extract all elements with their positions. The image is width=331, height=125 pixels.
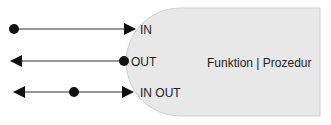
dot-marker-icon bbox=[9, 24, 19, 34]
dot-marker-icon bbox=[119, 56, 129, 66]
param-in-label: IN bbox=[140, 23, 152, 37]
arrow-left-icon bbox=[10, 55, 22, 67]
param-out-label: OUT bbox=[131, 55, 156, 69]
param-in-connector bbox=[9, 23, 136, 35]
param-inout-label: IN OUT bbox=[140, 86, 181, 100]
param-out-connector bbox=[10, 55, 129, 67]
param-inout-connector bbox=[13, 86, 134, 98]
dot-marker-icon bbox=[69, 87, 79, 97]
arrow-left-icon bbox=[13, 86, 25, 98]
block-title: Funktion | Prozedur bbox=[207, 56, 312, 70]
